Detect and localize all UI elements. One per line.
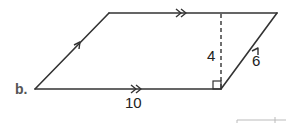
right-angle-marker — [213, 81, 221, 89]
height-label: 4 — [207, 47, 215, 64]
part-label: b. — [15, 81, 27, 97]
right-edge — [221, 13, 277, 89]
cropped-box-fragment — [237, 117, 286, 123]
base-label: 10 — [125, 94, 142, 111]
parallelogram-diagram: b. 10 4 6 — [0, 0, 286, 123]
side-label: 6 — [252, 52, 260, 69]
left-edge — [35, 13, 109, 89]
